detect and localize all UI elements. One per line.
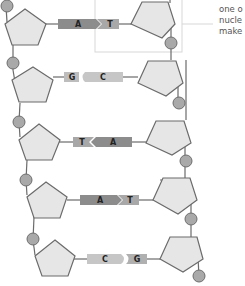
callout-line-3: make	[219, 26, 243, 37]
svg-text:T: T	[127, 196, 133, 205]
sugar-pentagon	[160, 237, 203, 272]
svg-text:C: C	[100, 73, 106, 82]
base-pair-1: A T	[58, 19, 119, 29]
sugar-pentagon	[138, 61, 183, 96]
phosphate-circle	[7, 57, 19, 69]
base-pair-3: T A	[73, 137, 132, 147]
base-pair-4: A T	[80, 195, 139, 205]
svg-text:T: T	[107, 20, 113, 29]
phosphate-circle	[27, 233, 39, 245]
sugar-pentagon	[27, 182, 67, 218]
base-pair-2: G C	[64, 72, 123, 82]
phosphate-circle	[180, 155, 192, 167]
svg-text:C: C	[102, 255, 108, 264]
phosphate-circle	[20, 174, 32, 186]
base-pair-5: C G	[87, 254, 147, 264]
phosphate-circle	[185, 213, 197, 225]
nucleotide-callout-label: one o nucle make	[219, 4, 243, 37]
svg-text:T: T	[79, 138, 85, 147]
phosphate-circle	[13, 116, 25, 128]
svg-text:A: A	[97, 196, 104, 205]
sugar-pentagon	[5, 9, 46, 45]
sugar-pentagon	[146, 121, 191, 155]
phosphate-circle	[173, 97, 185, 109]
phosphate-circle	[1, 0, 13, 12]
sugar-pentagon	[12, 67, 53, 102]
phosphate-circle	[165, 37, 177, 49]
phosphate-circle	[193, 270, 205, 282]
dna-diagram: A T G C T A A T C G	[0, 0, 245, 286]
callout-line-1: one o	[219, 4, 243, 15]
svg-text:G: G	[69, 73, 76, 82]
callout-line-2: nucle	[219, 15, 243, 26]
svg-text:A: A	[75, 20, 82, 29]
sugar-pentagon	[131, 2, 175, 38]
svg-text:A: A	[110, 138, 117, 147]
sugar-pentagon	[19, 124, 60, 160]
svg-text:G: G	[134, 255, 141, 264]
sugar-pentagon	[35, 240, 75, 276]
